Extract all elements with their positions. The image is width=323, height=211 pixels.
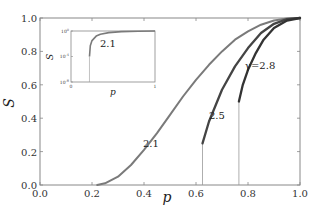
x-axis-label: p xyxy=(163,189,172,205)
y-axis-label: S xyxy=(1,98,17,108)
x-tick-label: 1.0 xyxy=(292,188,308,199)
y-tick-label: 0.4 xyxy=(21,113,37,124)
curve-label-2-5: 2.5 xyxy=(209,110,225,121)
x-tick-label: 0.2 xyxy=(84,188,100,199)
inset-x-label: p xyxy=(110,87,116,97)
axis-ticks: 0.00.20.40.60.81.00.00.20.40.60.81.0 xyxy=(21,13,308,199)
curve-2-5 xyxy=(203,18,301,143)
inset-y-tick: 10-4 xyxy=(60,53,70,59)
inset-y-label: S xyxy=(45,54,55,60)
y-tick-label: 0.2 xyxy=(21,147,37,158)
y-tick-label: 0.6 xyxy=(21,80,37,91)
inset-y-tick: 10-8 xyxy=(60,79,69,85)
curve-label-2-8: γ=2.8 xyxy=(245,60,275,71)
inset-x-tick: 0 xyxy=(70,84,73,89)
x-tick-label: 0.6 xyxy=(188,188,204,199)
inset-x-tick: 1 xyxy=(154,84,157,89)
y-tick-label: 1.0 xyxy=(21,13,37,24)
inset-curve-label: 2.1 xyxy=(100,38,116,49)
percolation-chart: 0.00.20.40.60.81.00.00.20.40.60.81.0 p S… xyxy=(0,0,323,211)
y-tick-label: 0.8 xyxy=(21,46,37,57)
x-tick-label: 0.8 xyxy=(240,188,256,199)
y-tick-label: 0.0 xyxy=(21,180,37,191)
curve-label-2-1: 2.1 xyxy=(143,138,159,149)
x-tick-label: 0.4 xyxy=(136,188,152,199)
inset-chart: 0110010-410-8 p S 2.1 xyxy=(45,28,157,98)
inset-y-tick: 100 xyxy=(61,28,69,34)
